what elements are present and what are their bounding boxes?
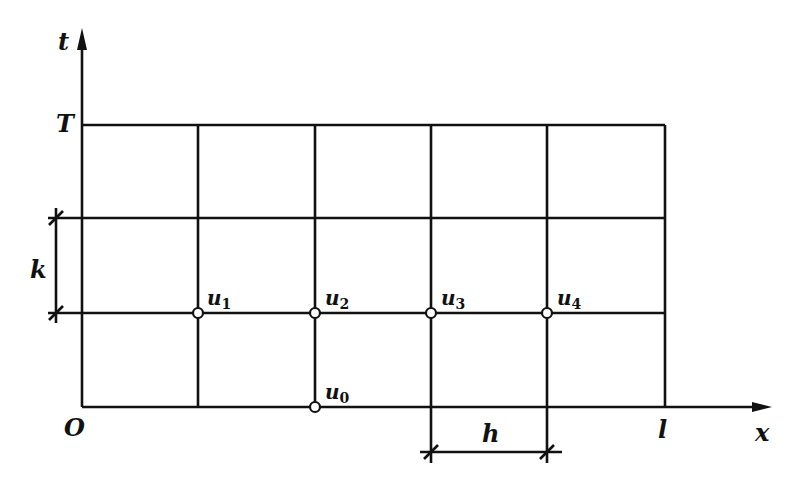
node-label-u4-name: u (557, 286, 572, 310)
x-axis-label: x (755, 421, 769, 445)
node-label-u3-sub: 3 (456, 296, 466, 312)
node-label-u1-name: u (207, 286, 222, 310)
k-label: k (30, 258, 47, 282)
node-u0-icon (310, 402, 320, 412)
node-label-u3-name: u (441, 286, 456, 310)
l-label: l (658, 418, 667, 442)
node-u3-icon (426, 308, 436, 318)
x-axis-arrow-icon (752, 402, 772, 412)
node-label-u4-sub: 4 (572, 296, 582, 312)
t-axis-arrow-icon (77, 28, 87, 50)
node-label-u3: u3 (441, 288, 465, 311)
node-label-u2-sub: 2 (340, 296, 350, 312)
node-u2-icon (310, 308, 320, 318)
node-u4-icon (542, 308, 552, 318)
node-label-u1: u1 (207, 288, 231, 311)
node-label-u2-name: u (325, 286, 340, 310)
node-label-u0-name: u (325, 380, 340, 404)
node-label-u0-sub: 0 (340, 390, 350, 406)
origin-label: O (64, 416, 85, 440)
finite-difference-grid-diagram: t T O l x k h u1 u2 u3 u4 u0 (0, 0, 795, 481)
node-label-u2: u2 (325, 288, 349, 311)
grid-svg (0, 0, 795, 481)
node-label-u0: u0 (325, 382, 349, 405)
h-label: h (482, 422, 499, 446)
node-label-u4: u4 (557, 288, 581, 311)
node-u1-icon (193, 308, 203, 318)
T-label: T (56, 112, 74, 136)
node-label-u1-sub: 1 (222, 296, 232, 312)
t-axis-label: t (58, 30, 69, 54)
